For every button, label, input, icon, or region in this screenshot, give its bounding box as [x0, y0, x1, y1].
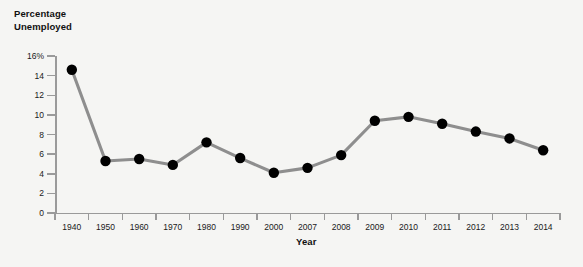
x-tick-boundary-13	[492, 213, 494, 220]
x-tick-boundary-2	[122, 213, 124, 220]
y-tick-label-2: 2	[14, 188, 44, 198]
x-axis-title: Year	[296, 236, 316, 247]
y-tick-label-4: 4	[14, 169, 44, 179]
data-point-1940	[67, 65, 77, 75]
y-tick-10	[47, 114, 55, 116]
x-tick-boundary-9	[357, 213, 359, 220]
x-axis-line	[55, 213, 561, 215]
y-axis-title: Percentage Unemployed	[14, 8, 72, 33]
x-tick-boundary-12	[458, 213, 460, 220]
data-point-1950	[100, 156, 110, 166]
x-tick-boundary-11	[425, 213, 427, 220]
x-tick-boundary-6	[256, 213, 258, 220]
y-tick-8	[47, 134, 55, 136]
y-tick-label-10: 10	[14, 110, 44, 120]
x-tick-boundary-3	[155, 213, 157, 220]
y-tick-label-6: 6	[14, 149, 44, 159]
x-tick-boundary-10	[391, 213, 393, 220]
data-point-2007	[302, 163, 312, 173]
data-point-2014	[538, 145, 548, 155]
y-tick-label-12: 12	[14, 90, 44, 100]
data-point-2010	[403, 112, 413, 122]
y-tick-label-0: 0	[14, 208, 44, 218]
y-tick-16	[47, 55, 55, 57]
unemployment-markers	[67, 65, 549, 178]
x-tick-boundary-4	[189, 213, 191, 220]
data-point-1980	[201, 137, 211, 147]
x-tick-boundary-0	[54, 213, 56, 220]
x-tick-boundary-7	[290, 213, 292, 220]
data-point-1970	[168, 160, 178, 170]
unemployment-line-chart: Percentage Unemployed 0246810121416% 194…	[0, 0, 583, 267]
data-point-2000	[269, 168, 279, 178]
data-point-2013	[504, 133, 514, 143]
y-axis-line	[55, 56, 57, 214]
x-tick-label-2014: 2014	[521, 222, 565, 232]
x-tick-boundary-1	[88, 213, 90, 220]
y-tick-2	[47, 193, 55, 195]
unemployment-line	[72, 70, 543, 173]
data-point-2011	[437, 119, 447, 129]
data-point-2012	[471, 126, 481, 136]
y-tick-4	[47, 173, 55, 175]
y-tick-label-14: 14	[14, 71, 44, 81]
x-tick-boundary-8	[324, 213, 326, 220]
data-point-2009	[370, 116, 380, 126]
y-tick-12	[47, 95, 55, 97]
data-point-1990	[235, 153, 245, 163]
x-tick-boundary-15	[559, 213, 561, 220]
data-point-2008	[336, 150, 346, 160]
x-tick-boundary-14	[526, 213, 528, 220]
x-tick-boundary-5	[223, 213, 225, 220]
data-point-1960	[134, 154, 144, 164]
y-tick-14	[47, 75, 55, 77]
y-tick-label-8: 8	[14, 130, 44, 140]
y-tick-6	[47, 153, 55, 155]
y-tick-label-16: 16%	[14, 51, 44, 61]
